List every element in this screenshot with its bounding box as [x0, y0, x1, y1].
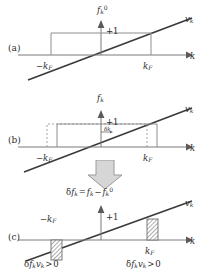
panel-a-horizontal-axis-label: k	[190, 52, 195, 61]
panel-b-left-tick-label: −kF	[36, 154, 52, 163]
panel-b-velocity-label: vk	[185, 105, 193, 114]
panel-b-letter: (b)	[8, 135, 21, 145]
panel-b-vertical-axis-label: fk	[97, 94, 104, 103]
panel-c-letter: (c)	[8, 232, 20, 242]
panel-a: (a) fk0 +1 k vk −kF kF	[0, 0, 210, 92]
figure-container: (a) fk0 +1 k vk −kF kF	[0, 0, 210, 280]
f-axis-arrowhead-b	[98, 110, 105, 118]
panel-c-title-expression: δfk = fk − fk0 δf_k = f_k − f_k⁰	[66, 187, 113, 197]
panel-c-amplitude-label: +1	[106, 213, 119, 222]
negative-block-c	[51, 240, 62, 260]
panel-c-velocity-label: vk	[185, 199, 193, 208]
panel-c-horizontal-axis-label: k	[190, 237, 195, 246]
panel-a-vertical-axis-label: fk0	[97, 5, 108, 15]
panel-c-left-tick-label: −kF	[40, 215, 56, 224]
panel-a-velocity-label: vk	[185, 15, 193, 24]
panel-b-shift-label: δk	[104, 127, 111, 133]
panel-a-left-tick-label: −kF	[36, 62, 52, 71]
panel-c-right-tick-label: kF	[145, 247, 154, 256]
panel-c: (c) δfk = fk − fk0 δf_k = f_k − f_k⁰ +1 …	[0, 185, 210, 280]
f-axis-arrowhead-a	[98, 20, 105, 28]
panel-a-letter: (a)	[8, 43, 20, 53]
positive-block-c	[147, 219, 158, 240]
panel-a-amplitude-label: +1	[106, 27, 119, 36]
panel-a-right-tick-label: kF	[143, 62, 152, 71]
f-axis-arrowhead-c	[98, 205, 105, 213]
panel-b-right-tick-label: kF	[143, 154, 152, 163]
panel-c-right-annotation: δfkvk > 0 δf_k v_k > 0	[126, 260, 161, 269]
panel-b-horizontal-axis-label: k	[190, 144, 195, 153]
panel-c-left-annotation: δfkvk > 0 δf_k v_k > 0	[24, 260, 59, 269]
